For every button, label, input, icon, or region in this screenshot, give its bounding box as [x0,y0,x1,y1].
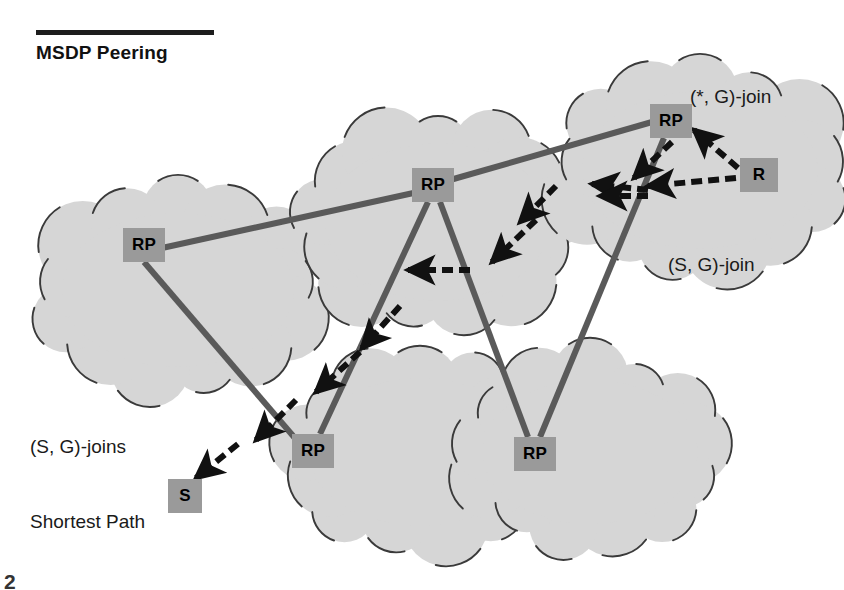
label-spt-line-2: Shortest Path [30,509,145,534]
node-label: RP [301,441,325,461]
label-spt-line-3: Tree [30,584,145,590]
cloud-domain-left [32,175,328,407]
node-label: R [753,165,766,185]
node-label: RP [523,444,547,464]
node-rp-top-right[interactable]: RP [650,104,692,138]
label-s-g-join: (S, G)-join [668,252,755,277]
node-label: RP [421,175,445,195]
diagram-page: MSDP Peering (*, G)-join (S, G)-join (S,… [0,0,844,590]
corner-page-mark: 2 [4,572,16,590]
node-rp-bottom-right[interactable]: RP [514,437,556,471]
label-spt-line-1: (S, G)-joins [30,434,145,459]
node-rp-left[interactable]: RP [123,228,165,262]
node-receiver-r[interactable]: R [740,158,778,192]
node-label: RP [132,235,156,255]
node-label: RP [659,111,683,131]
join-arrow-arrow-to-source-s [196,444,238,478]
label-star-g-join: (*, G)-join [690,84,771,109]
node-label: S [179,486,191,506]
cloud-domains-layer [32,54,844,566]
cloud-domain-center [290,108,588,336]
node-rp-bottom-left[interactable]: RP [292,434,334,468]
node-source-s[interactable]: S [168,479,202,513]
node-rp-center[interactable]: RP [412,168,454,202]
label-shortest-path-tree: (S, G)-joins Shortest Path Tree [30,384,145,590]
